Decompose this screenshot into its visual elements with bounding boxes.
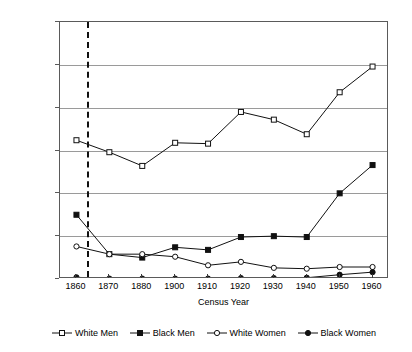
x-axis-tick-mark	[75, 274, 76, 278]
data-point	[370, 64, 375, 69]
data-point	[205, 263, 210, 268]
data-point	[74, 212, 79, 217]
data-point	[206, 141, 211, 146]
legend-label: Black Men	[153, 328, 195, 338]
legend-marker-filled-circle-icon	[298, 328, 318, 338]
series-white-men	[74, 64, 375, 168]
data-point	[107, 150, 112, 155]
data-point	[304, 235, 309, 240]
data-point	[271, 117, 276, 122]
legend-marker-filled-square-icon	[130, 328, 150, 338]
chart-legend: White MenBlack MenWhite WomenBlack Women	[44, 320, 384, 346]
data-point	[238, 235, 243, 240]
data-point	[173, 140, 178, 145]
y-axis-tick-mark	[55, 278, 59, 279]
data-point	[206, 247, 211, 252]
legend-item-black-women[interactable]: Black Women	[298, 328, 376, 338]
x-axis-tick-mark	[207, 274, 208, 278]
plot-area	[59, 21, 388, 278]
data-point	[173, 254, 178, 259]
x-axis-tick-label: 1960	[352, 281, 392, 291]
plot-inner	[60, 22, 387, 277]
data-point	[107, 252, 112, 257]
data-point	[337, 90, 342, 95]
x-axis-title: Census Year	[59, 297, 388, 307]
data-point	[370, 163, 375, 168]
legend-item-black-men[interactable]: Black Men	[130, 328, 195, 338]
data-point	[238, 109, 243, 114]
x-axis-tick-mark	[273, 274, 274, 278]
legend-label: Black Women	[321, 328, 376, 338]
data-point	[271, 265, 276, 270]
data-point	[271, 234, 276, 239]
data-point	[74, 244, 79, 249]
series-black-men	[74, 163, 375, 261]
data-point	[238, 259, 243, 264]
series-line	[76, 272, 372, 277]
series-white-women	[74, 244, 375, 271]
x-axis-tick-mark	[240, 274, 241, 278]
series-line	[76, 67, 372, 166]
x-axis-tick-mark	[141, 274, 142, 278]
x-axis-tick-mark	[108, 274, 109, 278]
x-axis-tick-mark	[372, 274, 373, 278]
series-layer	[60, 22, 387, 277]
x-axis-tick-mark	[306, 274, 307, 278]
data-point	[304, 132, 309, 137]
data-point	[337, 191, 342, 196]
series-line	[76, 246, 372, 268]
data-point	[370, 264, 375, 269]
series-black-women	[74, 270, 375, 277]
legend-marker-open-square-icon	[52, 328, 72, 338]
data-point	[140, 163, 145, 168]
legend-label: White Men	[75, 328, 118, 338]
data-point	[140, 252, 145, 257]
data-point	[337, 264, 342, 269]
data-point	[74, 138, 79, 143]
legend-item-white-women[interactable]: White Women	[207, 328, 286, 338]
x-axis-tick-mark	[339, 274, 340, 278]
x-axis-tick-mark	[174, 274, 175, 278]
series-line	[76, 165, 372, 258]
data-point	[173, 245, 178, 250]
chart-figure: Percentage Employed as Craftsmen 0510152…	[0, 0, 412, 352]
legend-item-white-men[interactable]: White Men	[52, 328, 118, 338]
legend-marker-open-circle-icon	[207, 328, 227, 338]
data-point	[304, 266, 309, 271]
legend-label: White Women	[230, 328, 286, 338]
